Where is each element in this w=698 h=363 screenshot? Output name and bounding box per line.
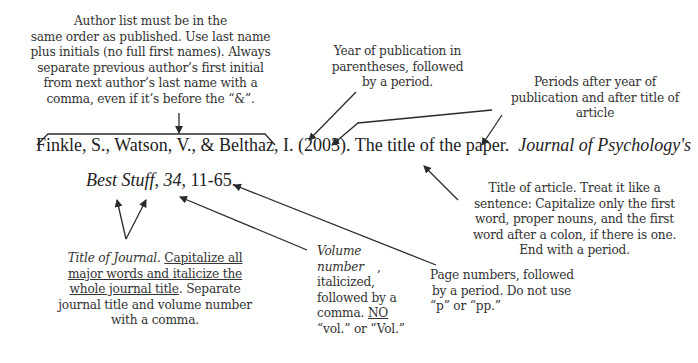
annotation-authors-line: from next author’s last name with a <box>18 76 283 92</box>
annotation-article-title-line: word after a colon, if there is one. <box>462 228 687 244</box>
annotation-year-line: by a period. <box>325 75 470 91</box>
annotation-authors-line: separate previous author’s first initial <box>18 61 283 77</box>
annotation-article-title-line: sentence: Capitalize only the first <box>462 197 687 213</box>
annotation-pages-line: “p” or “pp.” <box>430 299 590 315</box>
year-arrow <box>309 92 356 140</box>
journal-arrow-left <box>117 200 126 239</box>
annotation-volume-line: followed by a <box>317 291 417 307</box>
annotation-journal: Title of Journal. Capitalize all major w… <box>50 251 260 329</box>
annotation-periods: Periods after year of publication and af… <box>495 75 695 122</box>
citation-journal-title-part2: Best Stuff <box>86 170 155 190</box>
citation-separator: , <box>182 170 191 190</box>
article-title-arrow <box>424 166 458 200</box>
citation-separator: , <box>155 170 164 190</box>
citation-year: (2003). <box>298 135 351 155</box>
annotation-article-title-line: Title of article. Treat it like a <box>462 181 687 197</box>
annotation-pages-line: Page numbers, followed <box>430 268 590 284</box>
volume-arrow <box>180 197 307 250</box>
annotation-pages-line: by a period. Do not use <box>430 284 590 300</box>
citation-pages: 11-65. <box>191 170 237 190</box>
citation-article-title: The title of the paper. <box>355 135 509 155</box>
citation-line-2: Best Stuff, 34, 11-65. <box>86 170 236 191</box>
citation-authors: Finkle, S., Watson, V., & Belthaz, I. <box>36 135 294 155</box>
citation-journal-title-part1: Journal of Psychology's <box>518 135 691 155</box>
annotation-article-title-line: word, proper nouns, and the first <box>462 212 687 228</box>
annotation-journal-italic: Title of Journal <box>68 251 157 265</box>
annotation-article-title: Title of article. Treat it like a senten… <box>462 181 687 259</box>
journal-arrow-right <box>126 200 146 239</box>
citation-volume: 34 <box>164 170 182 190</box>
annotation-periods-line: article <box>495 106 695 122</box>
annotation-volume: Volume number, italicized, followed by a… <box>317 244 417 337</box>
annotation-pages: Page numbers, followed by a period. Do n… <box>430 268 590 315</box>
annotation-volume-line: comma. <box>317 306 368 320</box>
annotation-authors-line: plus initials (no full first names). Alw… <box>18 45 283 61</box>
citation-line-1: Finkle, S., Watson, V., & Belthaz, I. (2… <box>36 135 691 156</box>
annotation-periods-line: publication and after title of <box>495 91 695 107</box>
annotation-authors: Author list must be in the same order as… <box>18 14 283 107</box>
annotation-authors-line: same order as published. Use last name <box>18 30 283 46</box>
annotation-year-line: parentheses, followed <box>325 60 470 76</box>
annotation-volume-line: italicized, <box>317 275 417 291</box>
annotation-volume-italic: Volume number <box>317 244 377 275</box>
annotation-periods-line: Periods after year of <box>495 75 695 91</box>
annotation-authors-line: comma, even if it’s before the “&”. <box>18 92 283 108</box>
annotation-year: Year of publication in parentheses, foll… <box>325 44 470 91</box>
annotation-volume-no: NO <box>368 306 388 320</box>
annotation-volume-punct: , <box>377 260 381 274</box>
annotation-authors-line: Author list must be in the <box>18 14 283 30</box>
annotation-article-title-line: End with a period. <box>462 243 687 259</box>
annotation-volume-line: “vol.” or “Vol.” <box>317 322 417 338</box>
annotation-year-line: Year of publication in <box>325 44 470 60</box>
